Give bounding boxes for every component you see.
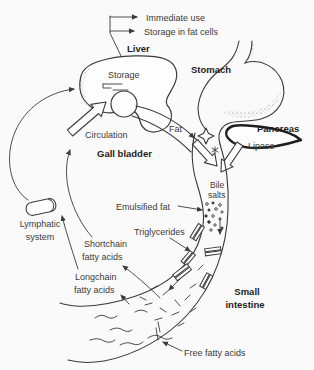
label-storage-in-fat-cells: Storage in fat cells bbox=[144, 27, 219, 37]
arrow-longchain-absorption bbox=[121, 295, 129, 304]
lipase-block-arrow bbox=[221, 142, 243, 172]
label-lipase: Lipase bbox=[248, 141, 275, 151]
arrow-triglycerides bbox=[170, 238, 190, 251]
label-shortchain-2: fatty acids bbox=[82, 252, 123, 262]
arrow-shortchain-absorption bbox=[123, 266, 160, 298]
label-gall-bladder: Gall bladder bbox=[97, 148, 152, 159]
label-circulation: Circulation bbox=[85, 130, 128, 140]
label-small-intestine-2: intestine bbox=[225, 299, 264, 310]
label-longchain-2: fatty acids bbox=[74, 285, 115, 295]
arrow-digestion-step bbox=[169, 279, 180, 290]
label-shortchain-1: Shortchain bbox=[84, 239, 127, 249]
label-liver: Liver bbox=[127, 43, 150, 54]
arrow-lymphatic-to-liver bbox=[9, 89, 74, 200]
arrow-emulsified-fat bbox=[178, 206, 202, 210]
label-triglycerides: Triglycerides bbox=[134, 227, 185, 237]
label-immediate-use: Immediate use bbox=[146, 13, 205, 23]
fat-digestion-diagram: Immediate use Storage in fat cells Liver… bbox=[0, 0, 314, 370]
arrow-free-fatty-acids bbox=[163, 342, 182, 351]
label-longchain-1: Longchain bbox=[75, 272, 117, 282]
lymphatic-vessel-shape bbox=[25, 198, 57, 217]
label-stomach: Stomach bbox=[191, 64, 231, 75]
label-fat: Fat bbox=[169, 124, 183, 134]
label-small-intestine-1: Small bbox=[234, 286, 259, 297]
arrow-fat bbox=[187, 131, 194, 138]
arrow-shortchain-to-circulation bbox=[66, 150, 92, 237]
fat-sparkle-icon bbox=[212, 147, 218, 153]
diagram-svg: Immediate use Storage in fat cells Liver… bbox=[0, 0, 314, 370]
fat-globule-icon bbox=[198, 128, 214, 144]
fatty-acid-dashes bbox=[140, 265, 203, 332]
label-emulsified-fat: Emulsified fat bbox=[116, 202, 171, 212]
free-fatty-acid-squiggles bbox=[90, 310, 172, 345]
label-lymphatic-2: system bbox=[26, 232, 55, 242]
arrow-longchain-to-lymphatic bbox=[62, 216, 78, 269]
label-bile-salts-1: Bile bbox=[210, 180, 224, 190]
label-pancreas: Pancreas bbox=[257, 123, 299, 134]
label-bile-salts-2: salts bbox=[208, 190, 225, 200]
bile-block-arrow bbox=[192, 140, 217, 166]
label-lymphatic-1: Lymphatic bbox=[20, 219, 61, 229]
label-free-fatty-acids: Free fatty acids bbox=[184, 348, 246, 358]
label-storage: Storage bbox=[108, 70, 140, 80]
